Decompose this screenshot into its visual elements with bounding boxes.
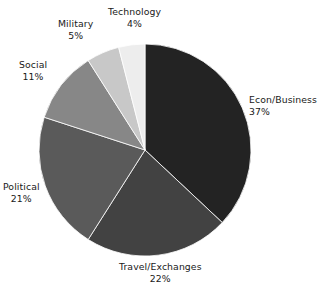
pie-chart-canvas — [0, 0, 326, 287]
pie-label-military-name: Military — [58, 18, 93, 30]
pie-label-social-value: 11% — [19, 71, 47, 83]
pie-label-social: Social 11% — [19, 59, 47, 82]
pie-label-political: Political 21% — [3, 181, 40, 204]
pie-label-technology-value: 4% — [108, 18, 161, 30]
pie-label-social-name: Social — [19, 59, 47, 71]
pie-label-military-value: 5% — [58, 30, 93, 42]
pie-label-travel-exchanges: Travel/Exchanges 22% — [119, 261, 202, 284]
pie-label-travel-exchanges-name: Travel/Exchanges — [119, 261, 202, 273]
pie-label-travel-exchanges-value: 22% — [119, 273, 202, 285]
pie-label-political-value: 21% — [3, 193, 40, 205]
pie-label-econ-business: Econ/Business 37% — [249, 94, 317, 117]
pie-label-technology: Technology 4% — [108, 6, 161, 29]
pie-label-technology-name: Technology — [108, 6, 161, 18]
pie-label-military: Military 5% — [58, 18, 93, 41]
pie-slices — [39, 44, 251, 256]
pie-chart: Econ/Business 37% Travel/Exchanges 22% P… — [0, 0, 326, 287]
pie-label-econ-business-name: Econ/Business — [249, 94, 317, 106]
pie-label-political-name: Political — [3, 181, 40, 193]
pie-label-econ-business-value: 37% — [249, 106, 317, 118]
